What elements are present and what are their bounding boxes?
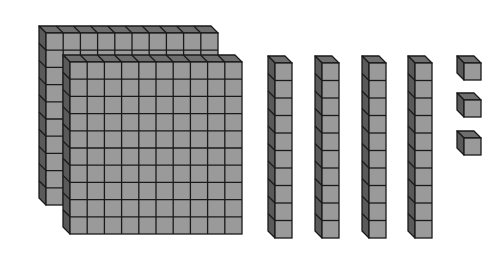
unit-cube-2	[457, 93, 481, 117]
ten-rod-1	[268, 56, 292, 238]
base-ten-blocks-diagram	[0, 0, 504, 261]
tens-rods-group	[268, 56, 432, 238]
hundreds-flats-group	[39, 26, 242, 234]
unit-cube-1	[457, 56, 481, 80]
hundred-flat-2	[63, 55, 242, 234]
ten-rod-3	[362, 56, 386, 238]
unit-cubes-group	[457, 56, 481, 155]
unit-cube-3	[457, 131, 481, 155]
ten-rod-4	[408, 56, 432, 238]
ten-rod-2	[315, 56, 339, 238]
